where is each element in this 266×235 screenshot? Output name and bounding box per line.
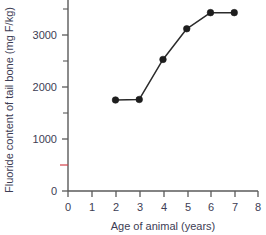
chart-canvas: 0 1000 2000 3000 0 1 2 3 4 5 6 7 8 <box>0 0 266 235</box>
x-tick-label-3: 3 <box>137 201 143 213</box>
x-axis-tick-labels: 0 1 2 3 4 5 6 7 8 <box>65 201 261 213</box>
x-tick-label-4: 4 <box>161 201 167 213</box>
data-point <box>231 9 238 16</box>
data-point <box>183 25 190 32</box>
x-tick-label-5: 5 <box>185 201 191 213</box>
y-axis-tick-labels: 0 1000 2000 3000 <box>33 29 57 197</box>
x-axis-title: Age of animal (years) <box>111 220 216 232</box>
data-point <box>136 96 143 103</box>
data-series-markers <box>112 9 237 103</box>
y-tick-label-3000: 3000 <box>33 29 57 41</box>
axes-group <box>68 0 258 191</box>
y-tick-label-0: 0 <box>51 185 57 197</box>
x-tick-label-8: 8 <box>255 201 261 213</box>
x-axis-ticks <box>68 191 258 197</box>
x-tick-label-1: 1 <box>89 201 95 213</box>
y-axis-title: Fluoride content of tail bone (mg F/kg) <box>3 7 15 193</box>
x-tick-label-6: 6 <box>208 201 214 213</box>
data-point <box>207 9 214 16</box>
fluoride-age-line-chart: 0 1000 2000 3000 0 1 2 3 4 5 6 7 8 <box>0 0 266 235</box>
data-point <box>112 97 119 104</box>
x-tick-label-7: 7 <box>232 201 238 213</box>
y-tick-label-2000: 2000 <box>33 81 57 93</box>
x-tick-label-0: 0 <box>65 201 71 213</box>
y-tick-label-1000: 1000 <box>33 133 57 145</box>
data-point <box>160 56 167 63</box>
data-series-line <box>116 13 235 100</box>
x-tick-label-2: 2 <box>113 201 119 213</box>
